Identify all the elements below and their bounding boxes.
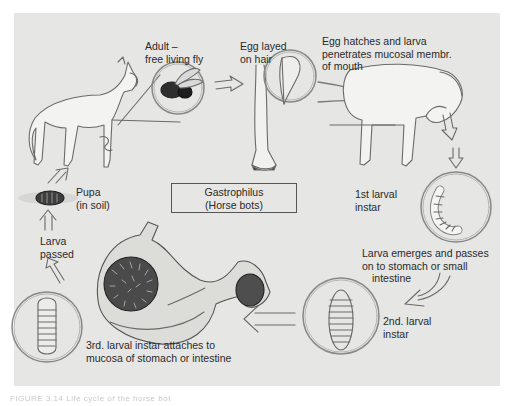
diagram-title-box: Gastrophilus (Horse bots) — [171, 183, 297, 213]
figure-caption: FIGURE 3.14 Life cycle of the horse bot — [10, 394, 171, 403]
label-line: instar — [355, 201, 397, 214]
stomach-icon — [97, 222, 270, 344]
label-line: Egg layed — [240, 40, 287, 53]
label-line: (in soil) — [76, 199, 110, 212]
label-first-instar: 1st larval instar — [355, 188, 397, 213]
label-line: Larva — [40, 235, 74, 248]
label-second-instar: 2nd. larval instar — [383, 315, 431, 340]
diagram-title: Gastrophilus — [172, 186, 296, 199]
label-larva-emerges: Larva emerges and passes on to stomach o… — [362, 247, 489, 285]
label-line: of mouth — [322, 60, 452, 73]
label-adult-fly: Adult – free living fly — [145, 40, 203, 65]
third-instar-larva-icon — [12, 292, 82, 362]
label-line: mucosa of stomach or intestine — [86, 352, 231, 365]
label-larva-passed: Larva passed — [40, 235, 74, 260]
label-line: penetrates mucosal membr. — [322, 48, 452, 61]
label-line: Pupa — [76, 186, 110, 199]
diagram-subtitle: (Horse bots) — [172, 199, 296, 212]
arrow-to-first-instar-icon — [442, 113, 463, 168]
label-third-instar: 3rd. larval instar attaches to mucosa of… — [86, 339, 231, 364]
arrow-fly-to-egg-icon — [215, 76, 243, 91]
label-line: Larva emerges and passes — [362, 247, 489, 260]
arrow-to-larva-passed-icon — [46, 258, 64, 283]
first-instar-larva-icon — [421, 172, 491, 242]
label-egg-layed: Egg layed on hair — [240, 40, 287, 65]
label-line: free living fly — [145, 53, 203, 66]
label-line: 1st larval — [355, 188, 397, 201]
label-line: 2nd. larval — [383, 315, 431, 328]
label-line: 3rd. larval instar attaches to — [86, 339, 231, 352]
horse-standing-icon — [29, 57, 138, 167]
label-line: Egg hatches and larva — [322, 35, 452, 48]
label-pupa: Pupa (in soil) — [76, 186, 110, 211]
pupa-icon — [18, 191, 78, 205]
label-line: passed — [40, 248, 74, 261]
second-instar-larva-icon — [303, 278, 379, 354]
adult-fly-icon — [152, 62, 204, 114]
arrow-to-stomach-icon — [244, 306, 295, 332]
egg-on-hair-icon — [252, 50, 316, 170]
label-line: Adult – — [145, 40, 203, 53]
label-line: on hair — [240, 53, 287, 66]
label-line: intestine — [362, 272, 489, 285]
label-egg-hatches: Egg hatches and larva penetrates mucosal… — [322, 35, 452, 73]
label-line: on to stomach or small — [362, 260, 489, 273]
label-line: instar — [383, 328, 431, 341]
